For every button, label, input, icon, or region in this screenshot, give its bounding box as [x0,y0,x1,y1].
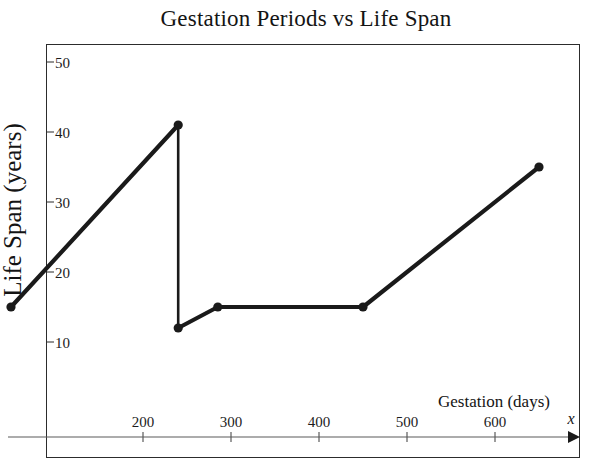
y-tick-label-20: 20 [55,265,70,281]
data-point-marker [174,120,183,129]
x-tick-label-500: 500 [396,414,419,430]
chart-figure: Gestation Periods vs Life Span Life Span… [0,0,612,476]
x-tick-label-400: 400 [308,414,331,430]
data-series [6,120,543,332]
x-tick-label-200: 200 [132,414,155,430]
y-tick-label-30: 30 [55,195,70,211]
data-point-marker [534,162,543,171]
data-point-marker [174,323,183,332]
data-point-marker [6,302,15,311]
y-tick-label-10: 10 [55,335,70,351]
plot-canvas: 50 40 30 20 10 200 300 400 500 600 Gesta… [0,0,612,476]
series-segment-tail [178,167,539,328]
y-tick-label-40: 40 [55,125,70,141]
x-axis-ticks: 200 300 400 500 600 [132,414,507,442]
y-tick-label-50: 50 [55,55,70,71]
series-segment-rise [11,125,178,307]
x-axis-arrow-icon [568,431,580,443]
x-axis-label: Gestation (days) [438,392,550,411]
y-axis-ticks: 50 40 30 20 10 [47,55,70,351]
data-point-marker [213,302,222,311]
x-axis [8,431,580,443]
x-axis-variable-label: x [566,410,574,427]
x-tick-label-600: 600 [484,414,507,430]
data-point-marker [358,302,367,311]
x-tick-label-300: 300 [220,414,243,430]
